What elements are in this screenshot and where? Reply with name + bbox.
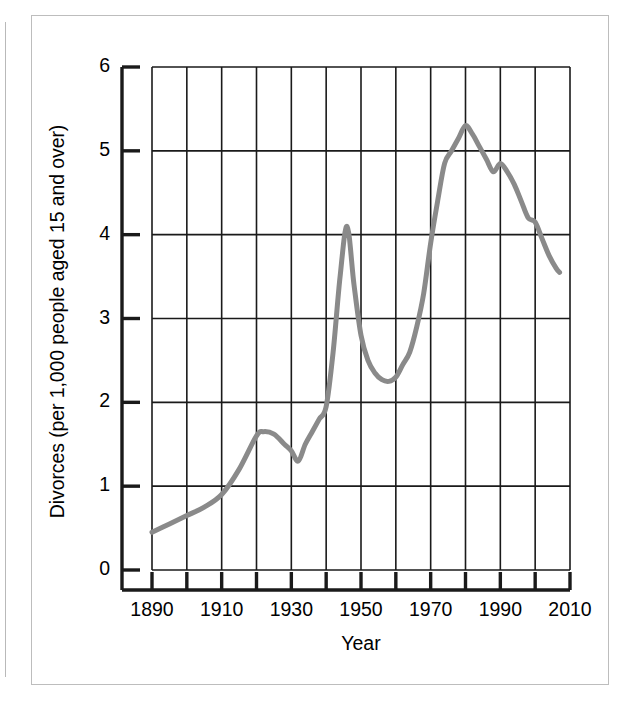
x-axis-tick-label: 2010 — [530, 598, 610, 621]
y-axis-tick-label: 4 — [84, 222, 110, 245]
y-axis-tick-label: 3 — [84, 306, 110, 329]
series-line-divorce-rate — [152, 126, 560, 533]
grid-lines — [152, 67, 570, 570]
data-series-line — [152, 126, 560, 533]
x-axis-title: Year — [152, 632, 570, 655]
y-axis-tick-label: 2 — [84, 389, 110, 412]
y-axis-tick-label: 0 — [84, 557, 110, 580]
x-axis-tick-label: 1930 — [251, 598, 331, 621]
chart-stage: 0123456 1890191019301950197019902010 Div… — [0, 0, 630, 710]
x-axis-tick-label: 1990 — [460, 598, 540, 621]
y-axis-title: Divorces (per 1,000 people aged 15 and o… — [46, 82, 69, 562]
x-axis-tick-label: 1950 — [321, 598, 401, 621]
y-axis-tick-label: 5 — [84, 138, 110, 161]
y-axis-tick-label: 6 — [84, 54, 110, 77]
figure-page: 0123456 1890191019301950197019902010 Div… — [0, 0, 630, 710]
y-axis-tick-label: 1 — [84, 473, 110, 496]
x-axis-tick-label: 1890 — [112, 598, 192, 621]
x-axis-tick-label: 1970 — [391, 598, 471, 621]
axis-tick-marks — [122, 67, 570, 590]
axis-spines — [122, 67, 570, 590]
x-axis-tick-label: 1910 — [182, 598, 262, 621]
